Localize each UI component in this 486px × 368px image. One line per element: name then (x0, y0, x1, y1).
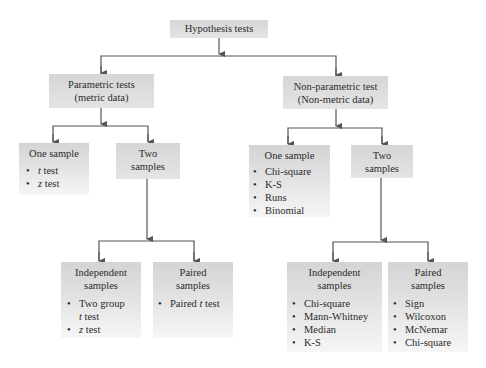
nonparametric-tests-node: Non-parametric test (Non-metric data) (283, 76, 388, 109)
node-title: Parametric tests (49, 78, 154, 91)
nonparametric-independent-samples-node: Independent samples Chi-square Mann-Whit… (287, 262, 382, 352)
nonparametric-one-sample-node: One sample Chi-square K-S Runs Binomial (249, 145, 330, 217)
list-item: t test (26, 164, 89, 177)
list-item: Wilcoxon (393, 310, 468, 323)
list-item: K-S (253, 178, 330, 191)
nonparametric-branch-line (288, 128, 382, 144)
root-branch-line (101, 56, 336, 76)
node-subtitle: (Non-metric data) (283, 93, 388, 106)
node-subtitle: (metric data) (49, 91, 154, 104)
list-item: Binomial (253, 204, 330, 217)
parametric-two-samples-node: Two samples (116, 143, 180, 179)
node-subtitle: samples (388, 279, 468, 292)
node-title: Hypothesis tests (170, 22, 268, 35)
parametric-paired-samples-node: Paired samples Paired t test (153, 262, 233, 338)
node-title: Independent (287, 266, 382, 279)
node-title: Paired (388, 266, 468, 279)
node-title: Two (351, 149, 413, 162)
list-item: Paired t test (158, 297, 233, 310)
node-title: Two (116, 147, 180, 160)
list-item: Two groupt test (67, 297, 141, 323)
list-item: Sign (393, 297, 468, 310)
param-two-branch-line (99, 241, 194, 261)
list-item: Chi-square (393, 336, 468, 349)
list-item: Median (292, 323, 382, 336)
nonparametric-two-samples-node: Two samples (351, 145, 413, 178)
node-subtitle: samples (351, 162, 413, 175)
node-subtitle: samples (116, 160, 180, 173)
node-title: Independent (61, 266, 141, 279)
node-subtitle: samples (61, 279, 141, 292)
node-title: One sample (249, 149, 330, 162)
hypothesis-tests-node: Hypothesis tests (170, 20, 268, 38)
node-title: Paired (153, 266, 233, 279)
node-subtitle: samples (153, 279, 233, 292)
list-item: Chi-square (292, 297, 382, 310)
node-title: Non-parametric test (283, 80, 388, 93)
list-item: Mann-Whitney (292, 310, 382, 323)
list-item: Runs (253, 191, 330, 204)
nonparam-two-branch-line (333, 242, 428, 261)
parametric-one-sample-node: One sample t test z test (19, 143, 89, 195)
list-item: K-S (292, 336, 382, 349)
parametric-independent-samples-node: Independent samples Two groupt test z te… (61, 262, 141, 338)
nonparametric-paired-samples-node: Paired samples Sign Wilcoxon McNemar Chi… (388, 262, 468, 352)
list-item: z test (67, 323, 141, 336)
node-title: One sample (19, 147, 89, 160)
parametric-branch-line (53, 126, 148, 142)
list-item: z test (26, 177, 89, 190)
node-subtitle: samples (287, 279, 382, 292)
list-item: Chi-square (253, 165, 330, 178)
list-item: McNemar (393, 323, 468, 336)
parametric-tests-node: Parametric tests (metric data) (49, 74, 154, 108)
